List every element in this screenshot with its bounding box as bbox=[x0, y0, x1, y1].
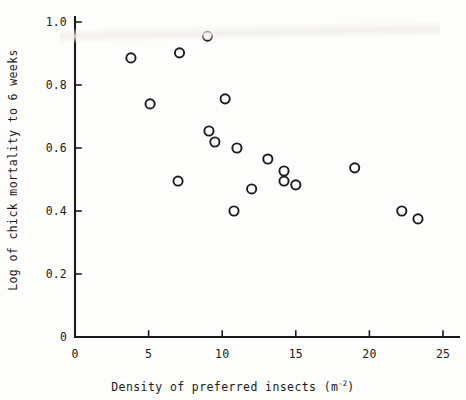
y-axis-title: Log of chick mortality to 6 weeks bbox=[2, 0, 24, 340]
data-point bbox=[279, 166, 288, 175]
data-point bbox=[145, 99, 154, 108]
y-tick-label-0.6: 0.6 bbox=[23, 141, 67, 155]
x-axis-title-text: Density of preferred insects (m bbox=[111, 380, 338, 394]
x-tick-label-5: 5 bbox=[145, 347, 152, 361]
data-point bbox=[173, 176, 182, 185]
data-point bbox=[350, 163, 359, 172]
axis-lines bbox=[75, 17, 459, 337]
x-tick-label-10: 10 bbox=[215, 347, 229, 361]
data-point bbox=[247, 184, 256, 193]
y-tick-label-0.2: 0.2 bbox=[23, 267, 67, 281]
data-point bbox=[126, 53, 135, 62]
y-tick-label-0: 0 bbox=[23, 330, 67, 344]
x-axis-title-close-paren: ) bbox=[347, 380, 354, 394]
data-point bbox=[279, 176, 288, 185]
data-point bbox=[397, 206, 406, 215]
plot-canvas bbox=[0, 0, 466, 400]
tick-marks bbox=[75, 22, 443, 337]
data-point bbox=[413, 214, 422, 223]
data-point bbox=[291, 180, 300, 189]
data-point bbox=[263, 154, 272, 163]
data-markers bbox=[126, 32, 422, 224]
y-tick-label-1: 1.0 bbox=[23, 15, 67, 29]
x-axis-title: Density of preferred insects (m-2) bbox=[0, 379, 466, 394]
x-tick-label-15: 15 bbox=[289, 347, 303, 361]
data-point bbox=[229, 206, 238, 215]
data-point bbox=[175, 48, 184, 57]
y-axis-title-text: Log of chick mortality to 6 weeks bbox=[6, 49, 20, 291]
data-point bbox=[221, 94, 230, 103]
y-tick-label-0.8: 0.8 bbox=[23, 78, 67, 92]
data-point bbox=[210, 137, 219, 146]
data-point bbox=[232, 143, 241, 152]
x-axis-title-exponent: -2 bbox=[338, 379, 347, 388]
x-tick-label-0: 0 bbox=[71, 347, 78, 361]
x-tick-label-20: 20 bbox=[362, 347, 376, 361]
data-point bbox=[203, 32, 212, 41]
scatter-plot-figure: 051015202500.20.40.60.81.0 Log of chick … bbox=[0, 0, 466, 400]
data-point bbox=[204, 126, 213, 135]
x-tick-label-25: 25 bbox=[436, 347, 450, 361]
y-tick-label-0.4: 0.4 bbox=[23, 204, 67, 218]
